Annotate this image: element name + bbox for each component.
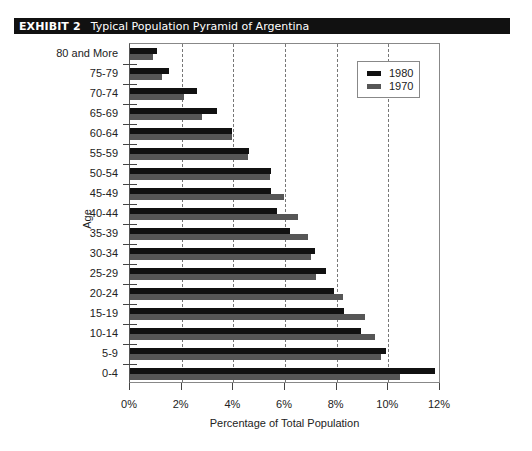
bar-1970 <box>130 174 270 180</box>
y-tick-label: 20-24 <box>90 283 118 303</box>
x-tick-label: 10% <box>367 398 407 410</box>
bar-1970 <box>130 234 308 240</box>
y-tick <box>123 364 137 365</box>
bar-1970 <box>130 354 381 360</box>
y-tick <box>123 304 137 305</box>
y-tick-label: 5-9 <box>102 343 118 363</box>
y-tick <box>123 84 137 85</box>
x-tick <box>232 383 233 390</box>
y-tick <box>123 184 137 185</box>
bar-group <box>130 364 439 384</box>
bar-1970 <box>130 294 343 300</box>
x-axis-title: Percentage of Total Population <box>129 417 440 429</box>
x-tick <box>387 383 388 390</box>
bar-group <box>130 224 439 244</box>
y-tick <box>123 164 137 165</box>
bar-1970 <box>130 134 232 140</box>
bar-1970 <box>130 154 248 160</box>
y-tick-label: 30-34 <box>90 243 118 263</box>
y-tick-label: 65-69 <box>90 103 118 123</box>
y-tick <box>123 144 137 145</box>
exhibit-title-bar: EXHIBIT 2 Typical Population Pyramid of … <box>14 18 510 34</box>
x-tick-label: 0% <box>109 398 149 410</box>
y-tick <box>123 324 137 325</box>
bar-1970 <box>130 114 202 120</box>
bar-group <box>130 124 439 144</box>
y-tick <box>123 244 137 245</box>
bar-group <box>130 244 439 264</box>
x-tick-label: 4% <box>212 398 252 410</box>
x-tick <box>181 383 182 390</box>
x-tick <box>129 383 130 390</box>
bar-group <box>130 324 439 344</box>
y-tick-label: 35-39 <box>90 223 118 243</box>
bar-group <box>130 84 439 104</box>
x-tick-label: 12% <box>419 398 459 410</box>
bar-1970 <box>130 334 375 340</box>
y-tick-label: 55-59 <box>90 143 118 163</box>
bar-group <box>130 344 439 364</box>
bar-1970 <box>130 54 153 60</box>
y-tick-label: 60-64 <box>90 123 118 143</box>
y-tick-label: 70-74 <box>90 83 118 103</box>
bar-group <box>130 304 439 324</box>
y-tick <box>123 284 137 285</box>
chart-title: Typical Population Pyramid of Argentina <box>91 20 310 33</box>
y-tick-label: 25-29 <box>90 263 118 283</box>
bar-group <box>130 164 439 184</box>
x-tick <box>336 383 337 390</box>
x-tick <box>439 383 440 390</box>
plot-area: 19801970 <box>129 43 440 383</box>
y-tick-label: 75-79 <box>90 63 118 83</box>
bar-group <box>130 264 439 284</box>
x-tick-label: 8% <box>316 398 356 410</box>
y-tick <box>123 104 137 105</box>
y-tick-label: 15-19 <box>90 303 118 323</box>
exhibit-label: EXHIBIT 2 <box>14 20 81 33</box>
bar-group <box>130 144 439 164</box>
y-tick-label: 50-54 <box>90 163 118 183</box>
bar-1970 <box>130 214 298 220</box>
bar-group <box>130 104 439 124</box>
bar-group <box>130 284 439 304</box>
y-tick <box>123 224 137 225</box>
bar-1970 <box>130 194 284 200</box>
y-tick-label: 10-14 <box>90 323 118 343</box>
y-tick-label: 0-4 <box>102 363 118 383</box>
y-tick-label: 45-49 <box>90 183 118 203</box>
y-tick <box>123 204 137 205</box>
y-tick <box>123 344 137 345</box>
bar-group <box>130 184 439 204</box>
bar-group <box>130 44 439 64</box>
bar-1970 <box>130 74 162 80</box>
y-tick <box>123 264 137 265</box>
y-tick-label: 80 and More <box>56 43 118 63</box>
bar-1970 <box>130 374 400 380</box>
bar-1970 <box>130 314 365 320</box>
x-tick <box>284 383 285 390</box>
y-tick <box>123 124 137 125</box>
bar-group <box>130 204 439 224</box>
bar-1970 <box>130 94 184 100</box>
bar-1970 <box>130 254 311 260</box>
y-tick <box>123 64 137 65</box>
bar-group <box>130 64 439 84</box>
y-axis-title: Age <box>81 204 93 234</box>
bar-1970 <box>130 274 316 280</box>
y-tick-label: 40-44 <box>90 203 118 223</box>
x-tick-label: 6% <box>264 398 304 410</box>
x-tick-label: 2% <box>161 398 201 410</box>
